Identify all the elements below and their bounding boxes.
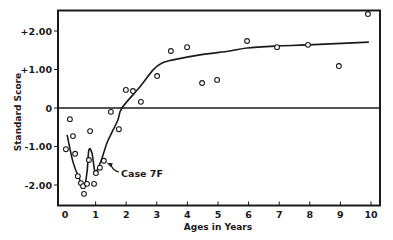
x-tick-label: 1: [92, 209, 99, 220]
data-point: [92, 181, 97, 186]
x-tick-label: 0: [62, 209, 69, 220]
x-tick-label: 5: [215, 209, 222, 220]
x-axis-title: Ages in Years: [184, 222, 252, 232]
x-tick-label: 6: [245, 209, 252, 220]
case-7f-label: Case 7F: [121, 168, 163, 179]
y-tick-label: -2.00: [25, 180, 53, 191]
data-point: [109, 109, 114, 114]
data-point: [85, 181, 90, 186]
data-point: [67, 117, 72, 122]
x-tick-label: 9: [337, 209, 344, 220]
data-point: [215, 77, 220, 82]
data-point: [86, 158, 91, 163]
data-point: [82, 191, 87, 196]
chart: 012345678910 +2.00+1.000-1.00-2.00 Case …: [0, 0, 393, 240]
y-axis-title: Standard Score: [13, 73, 23, 151]
data-point: [101, 158, 106, 163]
data-point: [94, 171, 99, 176]
x-tick-label: 3: [153, 209, 160, 220]
data-point: [245, 39, 250, 44]
data-point: [366, 12, 371, 17]
data-point: [88, 129, 93, 134]
y-tick-label: +2.00: [21, 26, 53, 37]
data-point: [97, 165, 102, 170]
data-point: [131, 89, 136, 94]
data-point: [185, 45, 190, 50]
y-tick-label: +1.00: [21, 64, 53, 75]
x-tick-label: 8: [306, 209, 313, 220]
data-point: [73, 151, 78, 156]
data-point: [64, 147, 69, 152]
data-point: [200, 81, 205, 86]
y-tick-label: -1.00: [25, 141, 53, 152]
data-point: [123, 88, 128, 93]
y-tick-label: 0: [45, 103, 52, 114]
fitted-curve: [67, 42, 369, 188]
data-point: [75, 174, 80, 179]
x-tick-label: 2: [123, 209, 130, 220]
data-point: [155, 74, 160, 79]
x-tick-label: 4: [184, 209, 191, 220]
data-point: [336, 64, 341, 69]
case-7f-arrow: [111, 165, 119, 172]
x-tick-label: 10: [364, 209, 378, 220]
data-point: [168, 49, 173, 54]
data-point: [71, 134, 76, 139]
data-point: [138, 99, 143, 104]
data-point: [306, 42, 311, 47]
data-point: [116, 127, 121, 132]
x-tick-label: 7: [276, 209, 283, 220]
data-point: [275, 45, 280, 50]
